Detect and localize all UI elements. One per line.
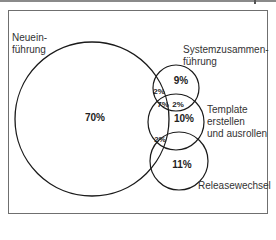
pct-neu-system-template: 7% <box>157 100 169 109</box>
label-neueinfuehrung: Neuein- führung <box>12 32 47 56</box>
pct-system-template: 2% <box>172 100 184 109</box>
pct-systemzusammenfuehrung: 9% <box>174 75 188 86</box>
pct-template: 10% <box>174 113 194 124</box>
label-template: Template erstellen und ausrollen <box>207 104 267 140</box>
pct-neu-system: 2% <box>153 87 165 96</box>
label-systemzusammenfuehrung: Systemzusammen- führung <box>183 44 269 68</box>
label-releasewechsel: Releasewechsel <box>198 180 271 192</box>
pct-releasewechsel: 11% <box>172 159 191 170</box>
pct-neu-template-release: 2% <box>154 135 166 144</box>
pct-neueinfuehrung: 70% <box>85 112 105 123</box>
